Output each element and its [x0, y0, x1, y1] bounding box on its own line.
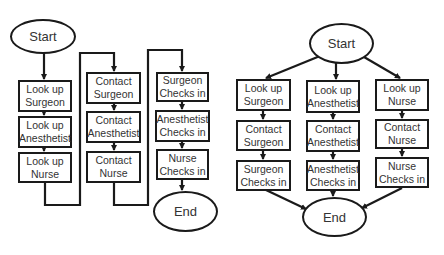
right-contact-surgeon: Contact Surgeon: [236, 120, 291, 151]
left-end-node: End: [153, 191, 218, 232]
node-label: Surgeon Checks in: [159, 74, 205, 100]
start-label: Start: [328, 37, 355, 50]
node-label: Contact Anesthetist: [307, 123, 359, 149]
end-label: End: [174, 205, 197, 218]
node-label: Anesthetist Checks in: [307, 163, 359, 189]
node-label: Look up Nurse: [26, 155, 63, 181]
left-contact-surgeon: Contact Surgeon: [86, 72, 141, 104]
right-contact-anesthetist: Contact Anesthetist: [306, 120, 360, 152]
right-surgeon-checks-in: Surgeon Checks in: [236, 160, 291, 191]
left-anesthetist-checks-in: Anesthetist Checks in: [155, 110, 210, 142]
node-label: Nurse Checks in: [379, 160, 425, 186]
left-lookup-surgeon: Look up Surgeon: [18, 80, 72, 112]
node-label: Contact Surgeon: [94, 75, 134, 101]
left-lookup-nurse: Look up Nurse: [18, 152, 72, 183]
node-label: Surgeon Checks in: [240, 163, 286, 189]
right-lookup-nurse: Look up Nurse: [375, 79, 429, 111]
right-lookup-surgeon: Look up Surgeon: [236, 79, 291, 111]
node-label: Look up Surgeon: [244, 82, 284, 108]
node-label: Contact Nurse: [95, 154, 131, 180]
node-label: Look up Anesthetist: [307, 84, 359, 110]
node-label: Look up Nurse: [383, 82, 420, 108]
right-end-node: End: [302, 197, 367, 237]
node-label: Contact Surgeon: [244, 123, 284, 149]
right-start-node: Start: [309, 23, 374, 64]
left-start-node: Start: [10, 19, 76, 54]
start-label: Start: [29, 30, 56, 43]
node-label: Look up Anesthetist: [19, 119, 71, 145]
right-lookup-anesthetist: Look up Anesthetist: [306, 80, 360, 113]
left-contact-anesthetist: Contact Anesthetist: [86, 111, 141, 143]
end-label: End: [323, 211, 346, 224]
right-nurse-checks-in: Nurse Checks in: [375, 157, 429, 188]
left-contact-nurse: Contact Nurse: [86, 151, 141, 183]
right-anesthetist-checks-in: Anesthetist Checks in: [306, 160, 360, 191]
node-label: Contact Anesthetist: [88, 114, 140, 140]
node-label: Contact Nurse: [384, 121, 420, 147]
left-lookup-anesthetist: Look up Anesthetist: [18, 116, 72, 148]
right-contact-nurse: Contact Nurse: [375, 119, 429, 149]
left-nurse-checks-in: Nurse Checks in: [156, 149, 209, 180]
left-surgeon-checks-in: Surgeon Checks in: [156, 72, 209, 102]
node-label: Anesthetist Checks in: [157, 113, 209, 139]
node-label: Look up Surgeon: [25, 83, 65, 109]
node-label: Nurse Checks in: [159, 152, 205, 178]
